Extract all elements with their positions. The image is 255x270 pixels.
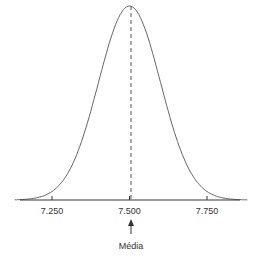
x-tick-label: 7.500 xyxy=(118,206,141,216)
mean-annotation-label: Média xyxy=(119,241,144,251)
x-tick-label: 7.250 xyxy=(41,206,64,216)
normal-distribution-chart: 7.2507.5007.750 Média xyxy=(0,0,255,270)
x-tick-label: 7.750 xyxy=(196,206,219,216)
x-axis-ticks: 7.2507.5007.750 xyxy=(41,196,219,216)
mean-arrow-icon xyxy=(128,219,134,234)
